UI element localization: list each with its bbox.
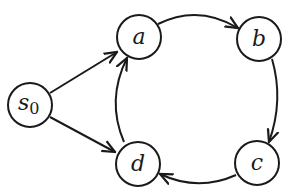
edge-s0-to-d bbox=[50, 117, 115, 152]
edge-s0-to-a bbox=[50, 52, 117, 93]
node-s0: s0 bbox=[8, 83, 52, 127]
svg-text:d: d bbox=[131, 151, 145, 176]
svg-text:c: c bbox=[251, 150, 263, 175]
node-c: c bbox=[235, 141, 279, 185]
edge-b-to-c bbox=[269, 59, 277, 142]
node-b: b bbox=[237, 17, 281, 61]
svg-text:a: a bbox=[132, 24, 145, 49]
edge-d-to-a bbox=[116, 58, 127, 142]
svg-text:b: b bbox=[252, 26, 266, 51]
edge-c-to-d bbox=[160, 174, 236, 183]
state-diagram: s0 a b c d bbox=[0, 0, 290, 196]
node-d: d bbox=[116, 142, 160, 186]
node-a: a bbox=[117, 15, 161, 59]
edge-a-to-b bbox=[158, 15, 238, 28]
